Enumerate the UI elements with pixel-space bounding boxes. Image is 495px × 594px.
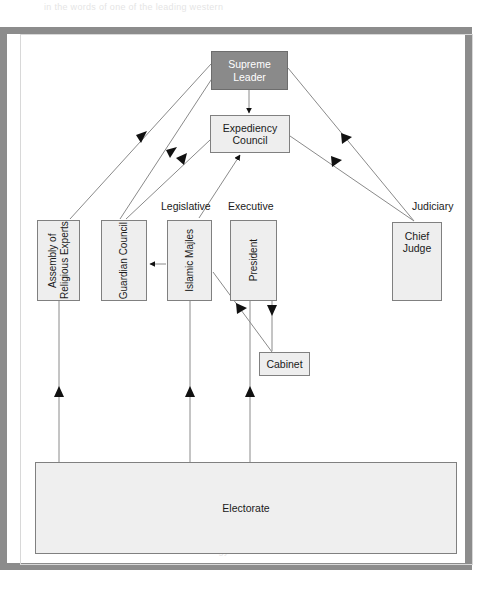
branch-label-legislative: Legislative — [161, 200, 211, 212]
arrowhead — [54, 386, 64, 397]
diagram-canvas: in the words of one of the leading weste… — [0, 0, 495, 594]
node-label: President — [248, 239, 260, 281]
node-label: Cabinet — [266, 358, 302, 370]
arrowhead — [341, 133, 352, 144]
node-assembly-of-religious-experts[interactable]: Assembly of Religious Experts — [37, 220, 80, 301]
arrowhead — [236, 303, 247, 314]
branch-label-judiciary: Judiciary — [412, 200, 453, 212]
arrowhead — [185, 386, 195, 397]
node-electorate[interactable]: Electorate — [35, 462, 457, 554]
node-expediency-council[interactable]: Expediency Council — [210, 115, 290, 153]
node-guardian-council[interactable]: Guardian Council — [101, 220, 147, 301]
arrowhead — [267, 305, 277, 316]
node-label: Islamic Majles — [184, 229, 196, 292]
node-supreme-leader[interactable]: Supreme Leader — [211, 51, 288, 90]
arrowhead — [245, 386, 255, 397]
node-islamic-majles[interactable]: Islamic Majles — [167, 220, 212, 301]
node-label: Expediency Council — [211, 122, 289, 147]
node-label: Assembly of Religious Experts — [47, 221, 71, 300]
node-president[interactable]: President — [230, 220, 277, 301]
arrowhead — [331, 156, 342, 167]
node-cabinet[interactable]: Cabinet — [259, 352, 310, 376]
node-chief-judge[interactable]: Chief Judge — [392, 222, 442, 301]
arrowhead — [166, 147, 177, 158]
node-label: Chief Judge — [393, 230, 441, 255]
arrowhead — [136, 131, 147, 143]
edge-expediency-council-to-chief-judge — [290, 136, 414, 221]
branch-label-executive: Executive — [228, 200, 274, 212]
node-label: Supreme Leader — [212, 58, 287, 83]
edge-supreme-leader-to-chief-judge — [288, 68, 414, 221]
node-label: Electorate — [222, 502, 269, 514]
node-label: Guardian Council — [118, 222, 130, 299]
